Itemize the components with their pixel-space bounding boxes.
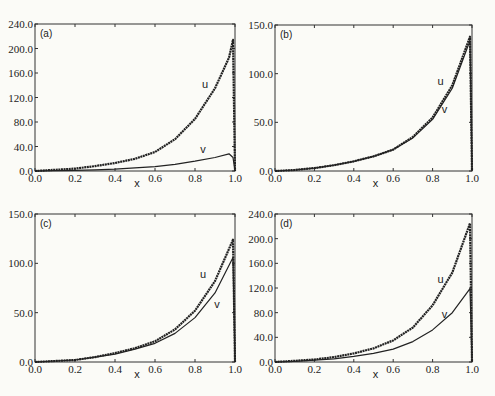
- panel-label: (a): [40, 28, 52, 39]
- x-axis-label: x: [134, 368, 140, 380]
- y-tick-label: 100.0: [8, 257, 33, 269]
- series-label-u: u: [437, 75, 443, 87]
- panel-label: (c): [40, 218, 52, 229]
- panel-label: (b): [280, 29, 292, 40]
- y-tick-label: 120.0: [248, 282, 273, 294]
- panel-c: 0.00.20.40.60.81.00.050.0100.0150.0x(c)u…: [8, 208, 242, 380]
- x-axis-label: x: [373, 368, 379, 380]
- x-tick-label: 0.4: [108, 172, 122, 184]
- x-tick-label: 1.0: [228, 363, 242, 375]
- series-label-v: v: [214, 298, 220, 310]
- y-tick-label: 150.0: [248, 19, 273, 31]
- y-tick-label: 50.0: [14, 307, 34, 319]
- x-tick-label: 0.8: [426, 172, 440, 184]
- y-tick-label: 200.0: [8, 43, 33, 55]
- y-tick-label: 80.0: [14, 116, 34, 128]
- y-tick-label: 240.0: [8, 18, 33, 30]
- y-tick-label: 240.0: [248, 208, 273, 220]
- x-tick-label: 0.2: [68, 172, 82, 184]
- x-tick-label: 0.6: [148, 363, 162, 375]
- y-tick-label: 200.0: [248, 233, 273, 245]
- x-tick-label: 1.0: [228, 172, 242, 184]
- series-label-v: v: [200, 143, 206, 155]
- series-label-v: v: [442, 308, 448, 320]
- x-tick-label: 0.2: [68, 363, 82, 375]
- x-tick-label: 0.8: [426, 363, 440, 375]
- x-tick-label: 0.2: [308, 172, 322, 184]
- y-tick-label: 0.0: [19, 356, 33, 368]
- series-label-u: u: [200, 268, 206, 280]
- y-tick-label: 120.0: [8, 92, 33, 104]
- y-tick-label: 150.0: [8, 208, 33, 220]
- y-tick-label: 50.0: [254, 116, 274, 128]
- series-label-u: u: [202, 78, 208, 90]
- x-tick-label: 0.4: [347, 172, 361, 184]
- x-tick-label: 0.8: [188, 172, 202, 184]
- panel-label: (d): [280, 218, 292, 229]
- series-label-u: u: [437, 273, 443, 285]
- series-v-line: [275, 289, 472, 362]
- y-tick-label: 40.0: [14, 141, 34, 153]
- series-u-line: [275, 223, 472, 362]
- y-tick-label: 0.0: [19, 165, 33, 177]
- series-u-line: [35, 240, 235, 362]
- y-tick-label: 40.0: [254, 331, 274, 343]
- x-axis-label: x: [373, 177, 379, 189]
- y-tick-label: 100.0: [248, 68, 273, 80]
- x-tick-label: 0.2: [308, 363, 322, 375]
- y-tick-label: 160.0: [248, 257, 273, 269]
- y-tick-label: 0.0: [259, 165, 273, 177]
- figure-four-panel-plot: 0.00.20.40.60.81.00.040.080.0120.0160.02…: [0, 0, 495, 396]
- x-tick-label: 0.8: [188, 363, 202, 375]
- x-axis-label: x: [134, 177, 140, 189]
- y-tick-label: 0.0: [259, 356, 273, 368]
- x-tick-label: 1.0: [465, 363, 479, 375]
- x-tick-label: 1.0: [465, 172, 479, 184]
- x-tick-label: 0.6: [386, 363, 400, 375]
- x-tick-label: 0.6: [386, 172, 400, 184]
- plot-frame: [35, 214, 235, 362]
- series-label-v: v: [442, 103, 448, 115]
- plot-frame: [275, 25, 472, 171]
- panel-a: 0.00.20.40.60.81.00.040.080.0120.0160.02…: [8, 18, 242, 189]
- y-tick-label: 80.0: [254, 307, 274, 319]
- panel-d: 0.00.20.40.60.81.00.040.080.0120.0160.02…: [248, 208, 479, 380]
- panel-b: 0.00.20.40.60.81.00.050.0100.0150.0x(b)u…: [248, 19, 479, 189]
- y-tick-label: 160.0: [8, 67, 33, 79]
- x-tick-label: 0.6: [148, 172, 162, 184]
- x-tick-label: 0.4: [347, 363, 361, 375]
- x-tick-label: 0.4: [108, 363, 122, 375]
